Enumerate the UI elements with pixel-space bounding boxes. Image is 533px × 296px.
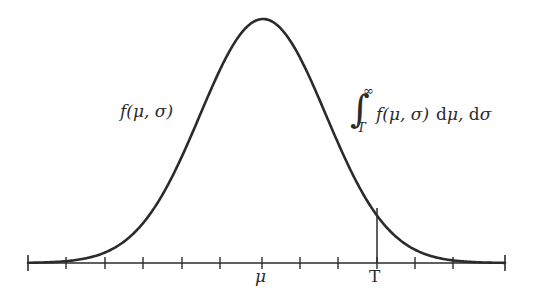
differentials-expression: dμ, dσ xyxy=(436,102,491,123)
density-function-label: f(μ, σ) xyxy=(120,103,173,120)
gaussian-density-curve xyxy=(28,19,505,263)
mu-axis-label: μ xyxy=(255,268,266,285)
integral-lower-limit: T xyxy=(357,121,366,134)
normal-distribution-figure: f(μ, σ) ∫ ∞ T f(μ, σ) dμ, dσ μ T xyxy=(0,0,533,296)
distribution-plot-svg xyxy=(0,0,533,296)
differential-d-mu: d xyxy=(436,104,447,124)
tail-integral-expression: ∫ ∞ T f(μ, σ) dμ, dσ xyxy=(348,88,491,136)
differential-variable-sigma: σ xyxy=(480,104,492,124)
integral-upper-limit: ∞ xyxy=(363,84,374,97)
differential-d-sigma: d xyxy=(469,104,480,124)
threshold-axis-label: T xyxy=(369,268,380,285)
differential-variable-mu: μ, xyxy=(447,104,463,124)
integrand-expression: f(μ, σ) xyxy=(376,102,429,123)
integral-sign-group: ∫ ∞ T xyxy=(348,88,378,136)
